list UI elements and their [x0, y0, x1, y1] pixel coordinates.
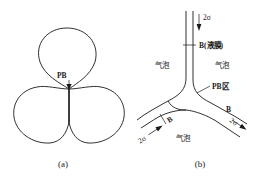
panel-b-caption: (b)	[195, 159, 206, 169]
bubble-bottom-label: 气泡	[176, 133, 191, 143]
bubble-left-label: 气泡	[155, 60, 170, 70]
panel-a-caption: (a)	[58, 159, 68, 169]
pb-zone-label: PB区	[212, 82, 230, 91]
foam-plateau-border-figure: PB (a) 2σ B(液膜) 气泡 气泡 气泡	[0, 0, 271, 176]
bubble-right-label: 气泡	[215, 60, 230, 70]
figure-background	[0, 0, 271, 176]
film-right-label: B	[226, 105, 231, 114]
film-top-label: B(液膜)	[199, 40, 224, 50]
tension-top-label: 2σ	[203, 13, 211, 22]
pb-label: PB	[57, 71, 67, 80]
